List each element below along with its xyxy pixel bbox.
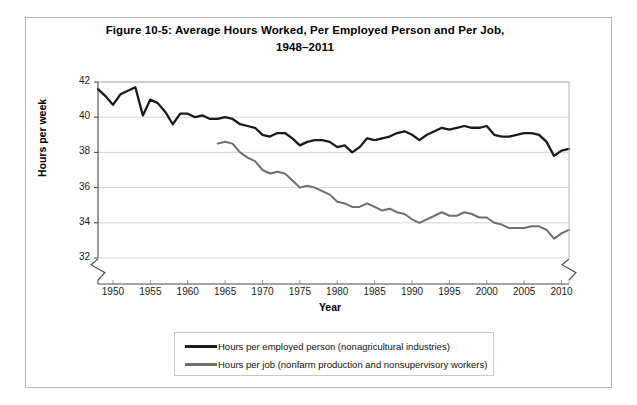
legend-item-per-job: Hours per job (nonfarm production and no… bbox=[185, 356, 487, 372]
ytick-label-42: 42 bbox=[62, 75, 90, 86]
xtick-label-1980: 1980 bbox=[317, 286, 357, 297]
chart-title-line-2: 1948–2011 bbox=[50, 39, 560, 56]
xtick-label-1965: 1965 bbox=[205, 286, 245, 297]
xtick-label-1950: 1950 bbox=[93, 286, 133, 297]
y-axis-title: Hours per week bbox=[36, 78, 48, 198]
xtick-label-1955: 1955 bbox=[130, 286, 170, 297]
x-axis-title: Year bbox=[90, 301, 570, 313]
legend-label-employed-person: Hours per employed person (nonagricultur… bbox=[218, 341, 450, 352]
xtick-label-1990: 1990 bbox=[392, 286, 432, 297]
xtick-label-2010: 2010 bbox=[542, 286, 582, 297]
xtick-label-1975: 1975 bbox=[280, 286, 320, 297]
ytick-label-38: 38 bbox=[62, 145, 90, 156]
legend-label-per-job: Hours per job (nonfarm production and no… bbox=[218, 359, 487, 370]
legend-swatch-employed-person bbox=[185, 345, 217, 348]
xtick-label-1960: 1960 bbox=[168, 286, 208, 297]
chart-title: Figure 10-5: Average Hours Worked, Per E… bbox=[50, 22, 560, 56]
xtick-label-1985: 1985 bbox=[355, 286, 395, 297]
xtick-label-1995: 1995 bbox=[429, 286, 469, 297]
ytick-label-34: 34 bbox=[62, 216, 90, 227]
xtick-label-2000: 2000 bbox=[467, 286, 507, 297]
chart-title-line-1: Figure 10-5: Average Hours Worked, Per E… bbox=[50, 22, 560, 39]
ytick-label-36: 36 bbox=[62, 181, 90, 192]
xtick-label-2005: 2005 bbox=[504, 286, 544, 297]
ytick-label-32: 32 bbox=[62, 251, 90, 262]
legend-swatch-per-job bbox=[185, 363, 217, 366]
ytick-label-40: 40 bbox=[62, 110, 90, 121]
xtick-label-1970: 1970 bbox=[242, 286, 282, 297]
legend-item-employed-person: Hours per employed person (nonagricultur… bbox=[185, 338, 450, 354]
chart-legend: Hours per employed person (nonagricultur… bbox=[174, 332, 494, 376]
